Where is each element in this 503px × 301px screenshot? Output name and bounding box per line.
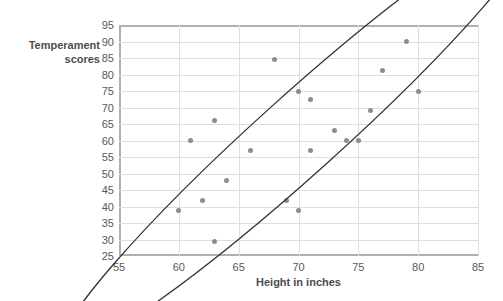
y-tick-label: 35	[102, 217, 114, 229]
data-point	[296, 89, 301, 94]
x-tick-label: 85	[472, 261, 484, 273]
data-point	[200, 198, 205, 203]
gridline-vertical	[418, 25, 419, 256]
x-tick-label: 80	[412, 261, 424, 273]
data-point	[344, 138, 349, 143]
gridline-vertical	[478, 25, 479, 256]
plot-area: 253035404550556065707580859095 556065707…	[119, 25, 478, 256]
gridline-vertical	[299, 25, 300, 256]
y-tick-label: 40	[102, 201, 114, 213]
data-point	[212, 118, 217, 123]
x-tick-label: 60	[173, 261, 185, 273]
data-point	[368, 108, 373, 113]
data-point	[416, 89, 421, 94]
y-axis-title: Temperament scores	[8, 38, 100, 66]
x-tick-label: 65	[233, 261, 245, 273]
y-tick-label: 65	[102, 118, 114, 130]
data-point	[308, 148, 313, 153]
y-tick-label: 30	[102, 234, 114, 246]
y-tick-label: 85	[102, 52, 114, 64]
y-tick-label: 90	[102, 36, 114, 48]
y-tick-label: 75	[102, 85, 114, 97]
y-tick-label: 95	[102, 19, 114, 31]
data-point	[308, 97, 313, 102]
y-tick-label: 70	[102, 102, 114, 114]
data-point	[332, 128, 337, 133]
y-tick-label: 45	[102, 184, 114, 196]
gridline-vertical	[239, 25, 240, 256]
data-point	[404, 39, 409, 44]
data-point	[356, 138, 361, 143]
x-axis-title: Height in inches	[119, 276, 478, 288]
data-point	[284, 198, 289, 203]
data-point	[296, 208, 301, 213]
x-tick-label: 70	[292, 261, 304, 273]
data-point	[272, 57, 277, 62]
data-point	[188, 138, 193, 143]
data-point	[380, 68, 385, 73]
y-tick-label: 55	[102, 151, 114, 163]
y-tick-label: 50	[102, 168, 114, 180]
data-point	[176, 208, 181, 213]
x-tick-label: 55	[113, 261, 125, 273]
scatter-plot-figure: Temperament scores 253035404550556065707…	[0, 0, 503, 301]
data-point	[212, 239, 217, 244]
y-tick-label: 80	[102, 69, 114, 81]
gridline-vertical	[179, 25, 180, 256]
data-point	[248, 148, 253, 153]
x-tick-label: 75	[352, 261, 364, 273]
data-point	[224, 178, 229, 183]
y-tick-label: 60	[102, 135, 114, 147]
